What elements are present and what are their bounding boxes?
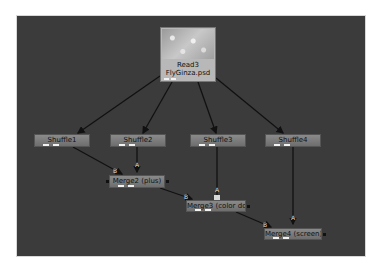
merge2-output[interactable] [166, 180, 169, 183]
node-indicator [205, 209, 211, 211]
shuffle3-node[interactable]: Shuffle3 [190, 134, 246, 147]
node-indicator [118, 185, 124, 187]
node-indicator [164, 78, 169, 80]
merge3-node[interactable]: Merge3 (color dodge) [186, 200, 246, 212]
merge2-node[interactable]: Merge2 (plus) [109, 175, 165, 188]
node-indicator [119, 144, 125, 146]
shuffle1-node[interactable]: Shuffle1 [34, 134, 90, 147]
node-indicator [195, 209, 201, 211]
merge4-output[interactable] [323, 233, 326, 236]
merge3-input-b[interactable]: B [184, 194, 188, 200]
node-indicator [53, 144, 59, 146]
merge4-input-b[interactable]: B [263, 222, 267, 228]
node-indicator [274, 144, 280, 146]
merge4-input-a[interactable]: A [291, 215, 295, 221]
read-node-file: FlyGinza.psd [161, 69, 215, 77]
node-indicator [128, 185, 134, 187]
node-indicator [171, 78, 176, 80]
read-node[interactable]: Read3 FlyGinza.psd [160, 27, 216, 82]
merge2-mask-input[interactable] [106, 180, 109, 183]
node-indicator [283, 237, 289, 239]
read-node-name: Read3 [161, 61, 215, 69]
read-node-thumbnail [162, 29, 214, 59]
node-indicator [273, 237, 279, 239]
shuffle4-node[interactable]: Shuffle4 [265, 134, 321, 147]
merge4-node[interactable]: Merge4 (screen) [264, 228, 322, 240]
merge3-input-a-highlight [214, 195, 220, 200]
node-indicator [199, 144, 205, 146]
merge2-input-a[interactable]: A [135, 162, 139, 168]
node-indicator [43, 144, 49, 146]
node-indicator [129, 144, 135, 146]
shuffle2-node[interactable]: Shuffle2 [110, 134, 166, 147]
node-indicator [209, 144, 215, 146]
merge2-input-b[interactable]: B [113, 168, 117, 174]
node-indicator [284, 144, 290, 146]
merge3-output[interactable] [247, 205, 250, 208]
merge3-input-a[interactable]: A [215, 187, 219, 193]
